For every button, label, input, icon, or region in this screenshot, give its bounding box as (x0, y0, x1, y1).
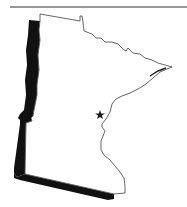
state-outline (25, 14, 172, 194)
minnesota-map (0, 0, 187, 207)
